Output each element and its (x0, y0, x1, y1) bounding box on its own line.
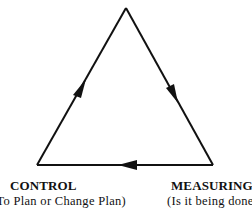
cycle-diagram (0, 0, 252, 208)
measuring-node-subtitle: (Is it being done (167, 195, 252, 208)
arrow-up-icon (73, 79, 86, 98)
triangle-edges (37, 8, 213, 165)
control-node-title: CONTROL (10, 179, 76, 192)
arrow-left-icon (118, 160, 137, 170)
control-node-subtitle: (To Plan or Change Plan) (0, 195, 126, 208)
arrow-down-icon (166, 84, 178, 103)
measuring-node-title: MEASURING (171, 179, 252, 192)
arrowheads (73, 79, 178, 170)
